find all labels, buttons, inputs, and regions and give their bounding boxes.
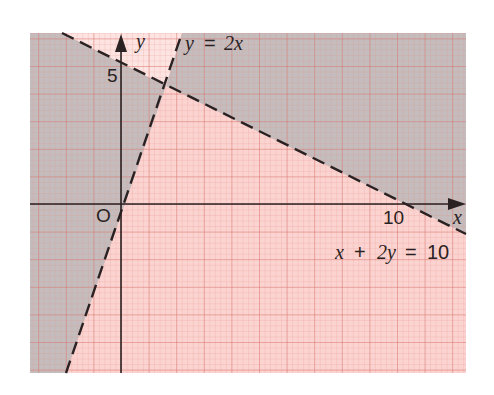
- origin-label: O: [96, 205, 111, 226]
- graph-paper: [30, 33, 466, 373]
- tick-label-x-10: 10: [383, 207, 404, 228]
- svg-text:y: y: [183, 32, 194, 55]
- svg-text:2x: 2x: [224, 32, 243, 54]
- svg-text:+: +: [354, 241, 366, 263]
- svg-text:=: =: [405, 241, 417, 263]
- grid-major: [30, 33, 466, 373]
- x-axis-label: x: [452, 206, 462, 228]
- svg-text:=: =: [204, 32, 216, 54]
- label-line-y-eq-2x: y = 2x: [183, 32, 243, 55]
- svg-text:x: x: [334, 241, 344, 263]
- svg-text:2y: 2y: [377, 241, 396, 264]
- y-axis-label: y: [134, 30, 145, 53]
- inequality-graph: y x O 5 10 y = 2x x + 2y = 10: [0, 0, 494, 395]
- svg-text:10: 10: [427, 241, 449, 263]
- tick-label-y-5: 5: [107, 65, 118, 86]
